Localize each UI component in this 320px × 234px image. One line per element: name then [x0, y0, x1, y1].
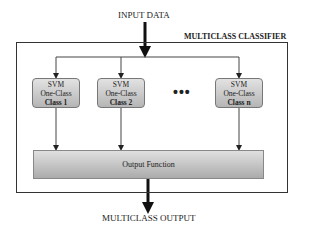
one-class-label: One-Class [216, 89, 262, 98]
ellipsis: ••• [173, 84, 191, 100]
svm-label: SVM [216, 80, 262, 89]
class-label: Class n [216, 98, 262, 107]
svm-class-2-node: SVM One-Class Class 2 [97, 78, 145, 108]
class-label: Class 1 [33, 98, 79, 107]
input-data-label: INPUT DATA [118, 10, 170, 20]
multiclass-output-label: MULTICLASS OUTPUT [102, 213, 195, 223]
output-function-node: Output Function [33, 150, 264, 179]
svm-class-n-node: SVM One-Class Class n [215, 78, 263, 108]
one-class-label: One-Class [98, 89, 144, 98]
svm-label: SVM [33, 80, 79, 89]
class-label: Class 2 [98, 98, 144, 107]
svm-label: SVM [98, 80, 144, 89]
one-class-label: One-Class [33, 89, 79, 98]
multiclass-classifier-label: MULTICLASS CLASSIFIER [184, 32, 286, 41]
svm-class-1-node: SVM One-Class Class 1 [32, 78, 80, 108]
